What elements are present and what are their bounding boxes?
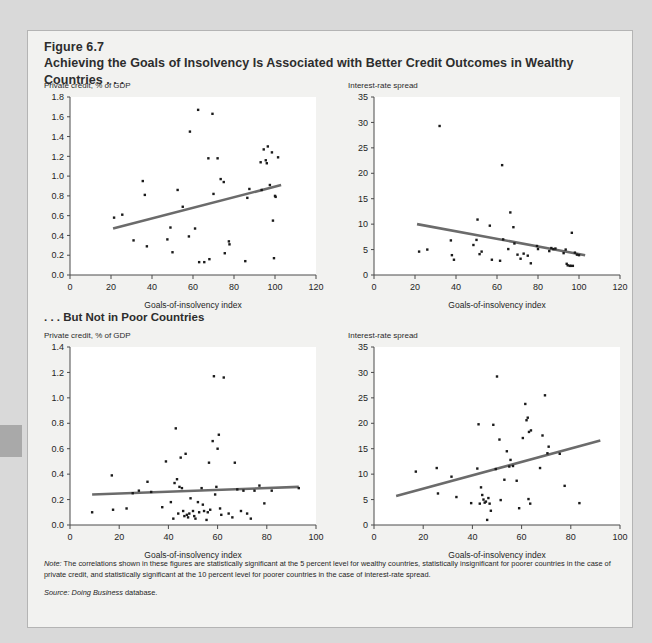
- y-tick-label: 1.0: [51, 171, 64, 181]
- data-point: [518, 507, 520, 509]
- data-point: [450, 239, 452, 241]
- data-point: [142, 180, 144, 182]
- data-point: [197, 501, 199, 503]
- data-point: [530, 262, 532, 264]
- x-tick-label: 40: [163, 532, 173, 542]
- y-tick-label: 20: [358, 418, 368, 428]
- data-point: [547, 445, 549, 447]
- x-tick-label: 120: [308, 282, 323, 292]
- data-point: [552, 248, 554, 250]
- data-point: [507, 248, 509, 250]
- data-point: [498, 438, 500, 440]
- data-point: [438, 125, 440, 127]
- data-point: [576, 253, 578, 255]
- x-tick-label: 40: [451, 282, 461, 292]
- data-point: [189, 130, 191, 132]
- x-axis-name: Goals-of-insolvency index: [144, 300, 242, 310]
- page-background: Figure 6.7 Achieving the Goals of Insolv…: [0, 0, 652, 643]
- data-point: [203, 261, 205, 263]
- chart-poor-private-credit: 0.00.20.40.60.81.01.21.4020406080100Goal…: [34, 339, 330, 571]
- data-point: [480, 250, 482, 252]
- data-point: [476, 218, 478, 220]
- y-tick-label: 30: [358, 118, 368, 128]
- data-point: [176, 189, 178, 191]
- data-point: [537, 248, 539, 250]
- data-point: [166, 238, 168, 240]
- y-tick-label: 15: [358, 194, 368, 204]
- data-point: [277, 156, 279, 158]
- data-point: [472, 244, 474, 246]
- x-tick-label: 20: [114, 532, 124, 542]
- y-tick-label: 1.6: [51, 112, 64, 122]
- data-point: [216, 448, 218, 450]
- x-tick-label: 60: [213, 532, 223, 542]
- data-point: [503, 479, 505, 481]
- x-tick-label: 80: [566, 532, 576, 542]
- data-point: [188, 512, 190, 514]
- chart-canvas-poor-interest-spread: 05101520253035020406080100Goals-of-insol…: [338, 339, 634, 571]
- data-point: [228, 243, 230, 245]
- y-tick-label: 1.2: [51, 152, 64, 162]
- y-tick-label: 1.4: [51, 132, 64, 142]
- data-point: [112, 509, 114, 511]
- data-point: [227, 512, 229, 514]
- data-point: [219, 178, 221, 180]
- data-point: [513, 242, 515, 244]
- data-point: [182, 510, 184, 512]
- x-tick-label: 60: [188, 282, 198, 292]
- data-point: [481, 494, 483, 496]
- y-tick-label: 0.8: [51, 418, 64, 428]
- data-point: [198, 511, 200, 513]
- data-point: [263, 148, 265, 150]
- data-point: [125, 507, 127, 509]
- chart-canvas-wealthy-private-credit: 0.00.20.40.60.81.01.21.41.61.80204060801…: [34, 89, 330, 321]
- source-paragraph: Source: Doing Business database.: [44, 588, 622, 599]
- data-point: [208, 258, 210, 260]
- data-point: [181, 487, 183, 489]
- y-tick-label: 1.0: [51, 393, 64, 403]
- data-point: [519, 258, 521, 260]
- data-point: [240, 510, 242, 512]
- data-point: [246, 197, 248, 199]
- data-point: [172, 517, 174, 519]
- data-point: [559, 453, 561, 455]
- chart-poor-interest-spread: 05101520253035020406080100Goals-of-insol…: [338, 339, 634, 571]
- data-point: [250, 517, 252, 519]
- data-point: [146, 481, 148, 483]
- data-point: [453, 259, 455, 261]
- data-point: [177, 512, 179, 514]
- data-point: [274, 196, 276, 198]
- data-point: [223, 181, 225, 183]
- data-point: [150, 491, 152, 493]
- data-point: [244, 260, 246, 262]
- data-point: [527, 416, 529, 418]
- data-point: [475, 239, 477, 241]
- data-point: [451, 254, 453, 256]
- data-point: [194, 517, 196, 519]
- data-point: [214, 493, 216, 495]
- data-point: [522, 252, 524, 254]
- y-tick-label: 0.4: [51, 469, 64, 479]
- data-point: [203, 510, 205, 512]
- data-point: [455, 496, 457, 498]
- x-tick-label: 100: [571, 282, 586, 292]
- data-point: [248, 188, 250, 190]
- data-point: [200, 487, 202, 489]
- data-point: [476, 467, 478, 469]
- y-tick-label: 1.2: [51, 368, 64, 378]
- x-tick-label: 80: [533, 282, 543, 292]
- data-point: [478, 253, 480, 255]
- y-tick-label: 25: [358, 393, 368, 403]
- data-point: [415, 470, 417, 472]
- data-point: [194, 227, 196, 229]
- data-point: [212, 193, 214, 195]
- data-point: [215, 486, 217, 488]
- data-point: [207, 157, 209, 159]
- data-point: [178, 486, 180, 488]
- data-point: [242, 489, 244, 491]
- data-point: [564, 248, 566, 250]
- data-point: [197, 109, 199, 111]
- data-point: [436, 467, 438, 469]
- figure-number: Figure 6.7: [44, 39, 622, 55]
- data-point: [509, 211, 511, 213]
